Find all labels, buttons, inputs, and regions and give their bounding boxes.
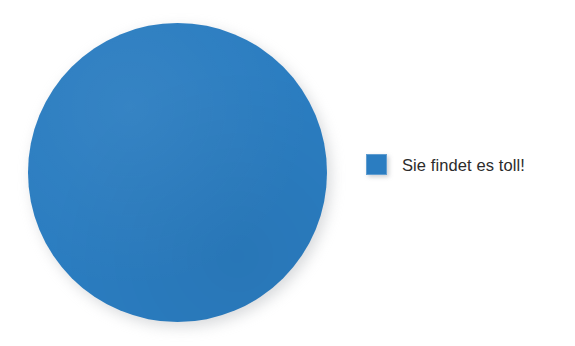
legend-item-label: Sie findet es toll!: [402, 156, 525, 175]
legend-swatch-blue-icon: [366, 154, 387, 175]
legend-swatch-wrapper: [366, 154, 388, 176]
pie-slice-label: Sie findet es toll!: [28, 23, 327, 322]
pie-plot-area: Sie findet es toll!: [0, 0, 355, 346]
legend-item-sie-findet-es-toll[interactable]: Sie findet es toll!: [366, 154, 525, 176]
pie-chart-figure: Sie findet es toll! Sie findet es toll!: [0, 0, 575, 346]
chart-legend: Sie findet es toll!: [366, 154, 525, 176]
